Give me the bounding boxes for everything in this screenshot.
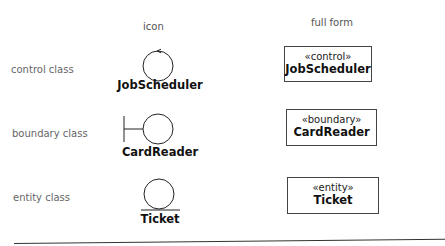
entity-icon-name: Ticket bbox=[110, 212, 210, 226]
row-label-control-class: control class bbox=[11, 64, 74, 75]
boundary-icon bbox=[122, 114, 178, 146]
boundary-class-name: CardReader bbox=[287, 126, 376, 139]
control-icon-name: JobScheduler bbox=[110, 78, 210, 92]
entity-icon bbox=[140, 178, 182, 212]
control-class-name: JobScheduler bbox=[285, 63, 371, 76]
boundary-class-box: «boundary» CardReader bbox=[286, 109, 377, 146]
entity-class-name: Ticket bbox=[288, 194, 378, 207]
full-form-column-header: full form bbox=[311, 17, 353, 28]
row-label-entity-class: entity class bbox=[13, 192, 70, 203]
bottom-divider bbox=[14, 239, 445, 244]
control-class-box: «control» JobScheduler bbox=[284, 46, 372, 82]
row-label-boundary-class: boundary class bbox=[12, 128, 88, 139]
entity-class-box: «entity» Ticket bbox=[287, 177, 379, 214]
boundary-icon-name: CardReader bbox=[110, 145, 210, 159]
icon-column-header: icon bbox=[143, 21, 164, 32]
